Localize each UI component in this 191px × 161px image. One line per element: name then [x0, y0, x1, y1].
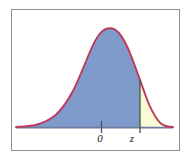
axis-tick-label-zero: 0	[90, 133, 110, 144]
normal-distribution-figure: 0 z	[0, 0, 191, 161]
normal-curve-plot	[12, 10, 179, 150]
plot-frame	[11, 9, 180, 151]
body-region-fill	[16, 28, 140, 127]
axis-tick-label-z: z	[122, 133, 142, 144]
